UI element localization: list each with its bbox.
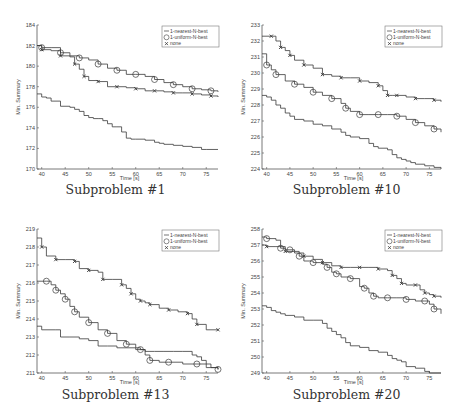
x-tick-label: 50: [310, 171, 316, 177]
y-axis-label: Min. Summary: [240, 79, 246, 115]
y-tick-label: 228: [251, 102, 260, 108]
subplot-13: 2112122132142152162172182194045505560657…: [0, 210, 231, 420]
y-tick-label: 252: [251, 322, 260, 328]
y-tick-label: 174: [26, 125, 35, 131]
x-tick-label: 75: [203, 375, 209, 381]
y-tick-label: 180: [26, 63, 35, 69]
y-tick-label: 216: [26, 280, 35, 286]
x-tick-label: 40: [264, 375, 270, 381]
x-tick-label: 70: [403, 171, 409, 177]
legend: 1-nearest-N-best1-uniform-N-bestnone: [162, 230, 219, 251]
y-tick-label: 215: [26, 298, 35, 304]
y-tick-label: 225: [251, 150, 260, 156]
subplot-title-10: Subproblem #10: [231, 182, 462, 197]
y-axis-label: Min. Summary: [240, 283, 246, 319]
subplot-title-13: Subproblem #13: [0, 387, 231, 402]
y-tick-label: 170: [26, 166, 35, 172]
y-tick-label: 212: [26, 352, 35, 358]
y-tick-label: 226: [251, 134, 260, 140]
y-tick-label: 218: [26, 244, 35, 250]
series-line-2: [37, 46, 218, 92]
y-tick-label: 258: [251, 226, 260, 232]
subplot-10: 2242252262272282292302312322334045505560…: [231, 0, 462, 210]
y-tick-label: 217: [26, 262, 35, 268]
x-axis-label: Time [s]: [120, 175, 140, 181]
x-tick-label: 65: [380, 375, 386, 381]
x-tick-label: 50: [86, 171, 92, 177]
legend-entry: none: [170, 40, 181, 46]
legend-entry: 1-nearest-N-best: [393, 232, 431, 238]
y-tick-label: 230: [251, 70, 260, 76]
legend-entry: 1-uniform-N-best: [393, 238, 431, 244]
subplot-20: 2492502512522532542552562572584045505560…: [231, 210, 462, 420]
series-line-1: [262, 306, 441, 373]
legend: 1-nearest-N-best1-uniform-N-bestnone: [162, 26, 219, 47]
x-tick-label: 65: [156, 171, 162, 177]
y-tick-label: 176: [26, 104, 35, 110]
x-tick-label: 55: [109, 375, 115, 381]
y-tick-label: 224: [251, 166, 260, 172]
x-tick-label: 55: [333, 375, 339, 381]
subplot-1: 1701721741761781801821844045505560657075…: [0, 0, 231, 210]
legend-entry: 1-uniform-N-best: [170, 34, 208, 40]
series-line-3: [37, 46, 218, 97]
x-axis-label: Time [s]: [344, 379, 364, 385]
series-line-2: [37, 281, 218, 369]
series-line-1: [37, 326, 218, 369]
legend-entry: 1-nearest-N-best: [170, 232, 208, 238]
y-tick-label: 253: [251, 306, 260, 312]
x-tick-label: 40: [264, 171, 270, 177]
series-line-3: [37, 238, 218, 330]
y-tick-label: 249: [251, 370, 260, 376]
x-tick-label: 55: [109, 171, 115, 177]
legend-entry: none: [393, 244, 404, 250]
y-tick-label: 232: [251, 38, 260, 44]
x-tick-label: 70: [180, 375, 186, 381]
x-tick-label: 40: [39, 171, 45, 177]
legend-entry: none: [170, 244, 181, 250]
x-tick-label: 45: [62, 375, 68, 381]
x-tick-label: 50: [310, 375, 316, 381]
plot-svg-10: 2242252262272282292302312322334045505560…: [231, 0, 462, 210]
y-axis-label: Min. Summary: [15, 79, 21, 115]
legend-entry: 1-nearest-N-best: [393, 28, 431, 34]
y-tick-label: 231: [251, 54, 260, 60]
subplot-title-1: Subproblem #1: [0, 182, 231, 197]
legend-entry: 1-uniform-N-best: [393, 34, 431, 40]
x-tick-label: 50: [86, 375, 92, 381]
y-tick-label: 255: [251, 274, 260, 280]
legend-entry: 1-nearest-N-best: [170, 28, 208, 34]
y-tick-label: 178: [26, 84, 35, 90]
x-tick-label: 70: [180, 171, 186, 177]
y-tick-label: 254: [251, 290, 260, 296]
x-tick-label: 45: [62, 171, 68, 177]
y-tick-label: 182: [26, 43, 35, 49]
y-tick-label: 250: [251, 354, 260, 360]
y-tick-label: 227: [251, 118, 260, 124]
y-axis-label: Min. Summary: [15, 283, 21, 319]
plot-svg-1: 1701721741761781801821844045505560657075…: [0, 0, 231, 210]
series-line-1: [262, 95, 441, 169]
y-tick-label: 229: [251, 86, 260, 92]
subplot-title-20: Subproblem #20: [231, 387, 462, 402]
x-tick-label: 75: [203, 171, 209, 177]
legend-entry: 1-uniform-N-best: [170, 238, 208, 244]
y-tick-label: 184: [26, 22, 35, 28]
legend: 1-nearest-N-best1-uniform-N-bestnone: [385, 26, 442, 47]
x-axis-label: Time [s]: [120, 379, 140, 385]
legend-entry: none: [393, 40, 404, 46]
x-tick-label: 65: [156, 375, 162, 381]
legend: 1-nearest-N-best1-uniform-N-bestnone: [385, 230, 442, 251]
series-line-2: [262, 54, 441, 132]
y-tick-label: 257: [251, 242, 260, 248]
y-tick-label: 251: [251, 338, 260, 344]
x-tick-label: 70: [403, 375, 409, 381]
x-tick-label: 45: [287, 171, 293, 177]
x-tick-label: 45: [287, 375, 293, 381]
x-tick-label: 75: [426, 375, 432, 381]
y-tick-label: 233: [251, 22, 260, 28]
y-tick-label: 211: [26, 370, 35, 376]
y-tick-label: 219: [26, 226, 35, 232]
y-tick-label: 214: [26, 316, 35, 322]
y-tick-label: 172: [26, 145, 35, 151]
